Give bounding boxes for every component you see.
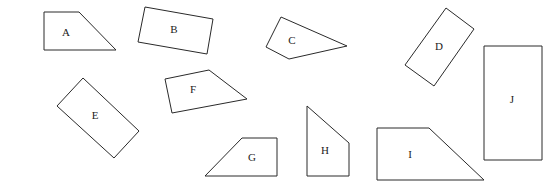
shape-h: H	[307, 106, 349, 176]
shape-b: B	[138, 7, 213, 54]
shape-c-label: C	[288, 34, 295, 46]
shapes-diagram: A B C D E F G H I J	[0, 0, 555, 187]
shape-i-outline	[377, 128, 484, 180]
shape-f-label: F	[190, 83, 196, 95]
shape-g-outline	[205, 138, 277, 176]
shape-f: F	[165, 70, 247, 113]
shape-j-label: J	[510, 93, 515, 105]
shape-g: G	[205, 138, 277, 176]
shape-e: E	[57, 78, 139, 158]
shape-j: J	[484, 46, 542, 160]
shape-h-label: H	[321, 144, 329, 156]
shape-a-outline	[44, 12, 116, 50]
shape-d-label: D	[435, 40, 443, 52]
shape-c-outline	[266, 17, 347, 59]
shape-a-label: A	[62, 26, 70, 38]
shape-i-label: I	[408, 148, 412, 160]
shape-d: D	[405, 8, 474, 86]
shape-c: C	[266, 17, 347, 59]
shape-i: I	[377, 128, 484, 180]
shape-g-label: G	[248, 151, 256, 163]
shape-a: A	[44, 12, 116, 50]
shape-h-outline	[307, 106, 349, 176]
shape-b-label: B	[170, 23, 177, 35]
shape-f-outline	[165, 70, 247, 113]
shape-e-label: E	[92, 109, 99, 121]
